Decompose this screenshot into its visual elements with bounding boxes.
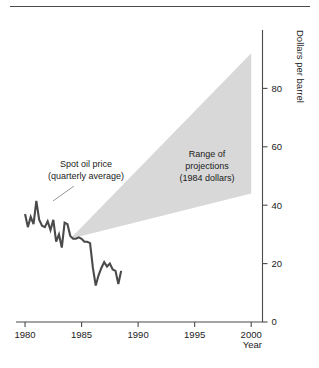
y-tick-label: 40 [272, 200, 283, 211]
x-tick-label: 1985 [71, 329, 92, 340]
y-tick-label: 80 [272, 83, 283, 94]
annotation-leader-line [53, 186, 74, 201]
spot-annotation-line-2: (quarterly average) [48, 171, 124, 181]
y-axis-ticks: 020406080 [263, 83, 283, 328]
spot-oil-price-annotation: Spot oil price (quarterly average) [48, 159, 124, 181]
x-axis-title: Year [243, 339, 262, 350]
range-of-projections-shaded-region [70, 53, 251, 238]
projections-annotation-line-1: Range of [189, 149, 226, 159]
y-tick-label: 20 [272, 258, 283, 269]
y-tick-label: 60 [272, 141, 283, 152]
x-axis-ticks: 19801985199019952000 [14, 322, 261, 340]
x-tick-label: 1980 [14, 329, 35, 340]
y-tick-label: 0 [272, 316, 277, 327]
y-axis-title: Dollars per barrel [295, 30, 306, 103]
x-tick-label: 1995 [184, 329, 205, 340]
spot-annotation-line-1: Spot oil price [60, 159, 112, 169]
oil-price-chart-figure: 020406080 19801985199019952000 Dollars p… [0, 0, 319, 368]
x-tick-label: 1990 [128, 329, 149, 340]
projections-annotation-line-2: projections [185, 161, 229, 171]
chart-plot-area: 020406080 19801985199019952000 Dollars p… [0, 0, 319, 368]
projections-annotation-line-3: (1984 dollars) [179, 173, 234, 183]
